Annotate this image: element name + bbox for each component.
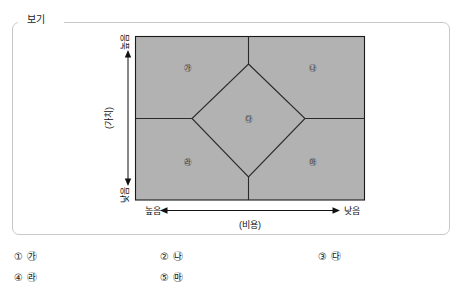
choice-4-number: ④: [14, 271, 23, 284]
answer-choices: ①㉮ ②㉯ ③㉰ ④㉱ ⑤㉲: [0, 248, 464, 296]
bogi-tab-label: 보기: [20, 13, 53, 26]
choice-1-number: ①: [14, 250, 23, 263]
choice-5[interactable]: ⑤㉲: [160, 271, 183, 284]
choice-1-value: ㉮: [27, 250, 37, 263]
choice-4[interactable]: ④㉱: [14, 271, 37, 284]
choice-2-value: ㉯: [173, 250, 183, 263]
choice-5-number: ⑤: [160, 271, 169, 284]
choice-5-value: ㉲: [173, 271, 183, 284]
choice-3[interactable]: ③㉰: [318, 250, 341, 263]
choice-1[interactable]: ①㉮: [14, 250, 37, 263]
choice-2-number: ②: [160, 250, 169, 263]
choice-3-value: ㉰: [331, 250, 341, 263]
choice-2[interactable]: ②㉯: [160, 250, 183, 263]
choice-3-number: ③: [318, 250, 327, 263]
bogi-box: [12, 22, 450, 235]
choice-4-value: ㉱: [27, 271, 37, 284]
